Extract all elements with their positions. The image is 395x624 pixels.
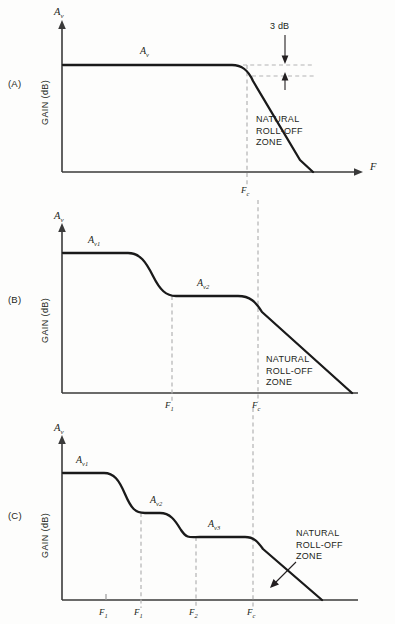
- panel-c-x-tick-fc: Fc: [247, 607, 255, 619]
- panel-c-y-axis-label: GAIN (dB): [40, 513, 50, 558]
- panel-b: (B) GAIN (dB) Av Av1 Av2 NATURAL ROLL-OF…: [0, 208, 395, 413]
- panel-c-y-arrowhead: [58, 435, 66, 444]
- panel-b-zone-line-3: ZONE: [266, 377, 313, 389]
- panel-b-y-axis-label: GAIN (dB): [40, 298, 50, 343]
- panel-a-y-axis-variable: Av: [54, 6, 64, 20]
- panel-c-label: (C): [8, 510, 22, 521]
- panel-c-zone-leader: [274, 562, 296, 584]
- panel-a-x-arrowhead: [354, 168, 363, 176]
- panel-b-zone-annotation: NATURAL ROLL-OFF ZONE: [266, 354, 313, 389]
- panel-c-zone-line-1: NATURAL: [296, 528, 343, 540]
- panel-c-response-curve: [63, 473, 322, 600]
- panel-c-x-tick-f1-b: F1: [134, 607, 143, 619]
- panel-a-y-axis-label: GAIN (dB): [40, 80, 50, 125]
- panel-b-zone-line-1: NATURAL: [266, 354, 313, 366]
- panel-a-zone-line-2: ROLL-OFF: [256, 126, 303, 138]
- panel-b-y-axis-variable: Av: [54, 210, 64, 224]
- panel-a-x-tick-fc: Fc: [241, 185, 249, 197]
- panel-c-zone-line-2: ROLL-OFF: [296, 540, 343, 552]
- panel-a-zone-line-1: NATURAL: [256, 114, 303, 126]
- panel-b-label: (B): [8, 294, 21, 305]
- panel-b-zone-line-2: ROLL-OFF: [266, 366, 313, 378]
- panel-a-3db-arrow-down: [282, 56, 289, 65]
- panel-a-label: (A): [8, 78, 21, 89]
- panel-b-gain-label-av2: Av2: [197, 277, 209, 290]
- panel-c-gain-label-av2: Av2: [150, 494, 162, 507]
- panel-b-y-arrowhead: [58, 223, 66, 232]
- panel-b-x-tick-f1: F1: [165, 400, 174, 412]
- panel-a-gain-label-av: Av: [140, 45, 149, 58]
- panel-a-x-axis-variable: F: [370, 161, 376, 172]
- panel-b-gain-label-av1: Av1: [88, 234, 100, 247]
- figure-root: (A) GAIN (dB) Av F Av 3 dB NATURAL ROLL-…: [0, 0, 395, 624]
- panel-a-zone-line-3: ZONE: [256, 137, 303, 149]
- panel-c-zone-line-3: ZONE: [296, 551, 343, 563]
- panel-c: (C) GAIN (dB) Av Av1 Av2 Av3 NATURAL ROL…: [0, 418, 395, 624]
- panel-c-gain-label-av1: Av1: [76, 454, 88, 467]
- panel-c-zone-annotation: NATURAL ROLL-OFF ZONE: [296, 528, 343, 563]
- panel-c-x-tick-f1-a: F1: [99, 607, 108, 619]
- panel-b-plot: [0, 208, 395, 413]
- panel-a-zone-annotation: NATURAL ROLL-OFF ZONE: [256, 114, 303, 149]
- panel-c-y-axis-variable: Av: [54, 422, 64, 436]
- panel-a-3db-label: 3 dB: [270, 21, 289, 31]
- panel-c-gain-label-av3: Av3: [208, 518, 220, 531]
- panel-c-x-tick-f2: F2: [189, 607, 198, 619]
- panel-c-plot: [0, 418, 395, 624]
- panel-a-plot: [0, 0, 395, 200]
- panel-a-y-arrowhead: [58, 20, 66, 29]
